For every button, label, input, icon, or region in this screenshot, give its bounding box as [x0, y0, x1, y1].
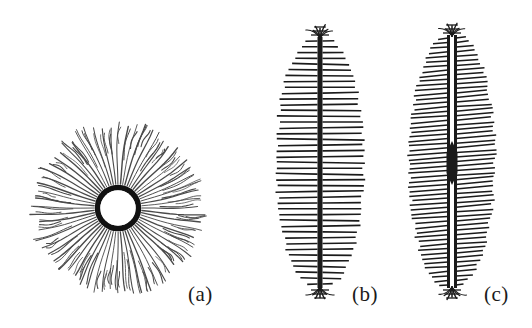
lamella: [323, 92, 359, 93]
lamella: [277, 162, 318, 163]
lamella: [323, 225, 361, 226]
lamella: [323, 174, 364, 175]
lamella: [323, 64, 350, 65]
lamella: [277, 151, 318, 152]
lamella: [323, 127, 364, 128]
lamella: [276, 173, 318, 174]
lamella: [279, 128, 317, 129]
lamella: [281, 226, 317, 227]
lamella: [277, 139, 318, 140]
lamella: [323, 267, 346, 268]
lamella: [280, 105, 317, 106]
lamella: [276, 191, 318, 192]
shish-backbone: [318, 37, 323, 288]
lamella: [278, 145, 318, 146]
lamella: [323, 196, 362, 197]
lamella: [456, 275, 473, 276]
lamella: [279, 197, 317, 198]
lamella: [293, 266, 317, 267]
backbone-node: [447, 153, 458, 173]
lamella: [323, 220, 360, 221]
lamella: [280, 220, 318, 221]
panel-label-a: (a): [188, 282, 213, 307]
spherulite-nucleus-core: [101, 191, 136, 226]
lamella: [282, 93, 318, 94]
lamella: [323, 243, 357, 244]
lamella: [276, 157, 317, 158]
lamella: [323, 144, 363, 145]
lamella: [323, 104, 358, 105]
shish-kebab-backbone-b: [318, 37, 323, 288]
lamella: [323, 150, 365, 151]
lamella: [323, 278, 342, 279]
lamella: [323, 156, 364, 157]
figure-container: (a) (b) (c): [0, 0, 532, 328]
panel-label-c: (c): [484, 282, 509, 307]
lamella: [292, 63, 317, 64]
lamella: [323, 163, 365, 164]
lamella: [430, 47, 448, 48]
lamella: [296, 272, 318, 273]
lamella: [323, 191, 364, 192]
figure-drawing: [0, 0, 532, 328]
lamella: [323, 139, 365, 140]
lamella: [286, 244, 317, 245]
lamella: [439, 285, 448, 286]
panel-label-b: (b): [352, 282, 378, 307]
lamella: [323, 272, 345, 273]
lamella: [456, 284, 464, 285]
